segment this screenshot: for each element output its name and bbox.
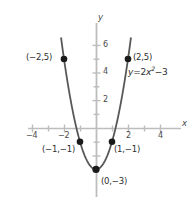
point-label-1-neg1: (1,−1) [114, 145, 140, 154]
equation-label: y=2x2−3 [128, 68, 168, 77]
point-0-neg3 [92, 166, 99, 173]
x-tick-label-4: 4 [158, 132, 163, 140]
point-neg2-5 [61, 56, 68, 63]
x-tick-label-neg2: −2 [58, 132, 69, 140]
x-axis-label: x [182, 119, 187, 128]
point-label-0-neg3: (0,−3) [101, 177, 127, 186]
parabola-graph-figure: y x −4 −2 2 4 2 4 6 (−2,5) (2,5) (−1,−1)… [0, 0, 196, 201]
point-label-neg2-5: (−2,5) [26, 53, 52, 62]
equation-constant: −3 [155, 67, 168, 77]
x-tick-label-2: 2 [126, 132, 131, 140]
point-label-2-5: (2,5) [133, 53, 152, 62]
point-2-5 [125, 56, 132, 63]
x-tick-label-neg4: −4 [26, 132, 37, 140]
point-neg1-neg1 [77, 139, 84, 146]
y-tick-label-2: 2 [103, 96, 108, 104]
y-tick-label-6: 6 [103, 41, 108, 49]
y-tick-label-4: 4 [103, 68, 108, 76]
coordinate-plane-svg [0, 0, 196, 201]
y-axis-label: y [98, 13, 103, 22]
point-label-neg1-neg1: (−1,−1) [42, 145, 75, 154]
